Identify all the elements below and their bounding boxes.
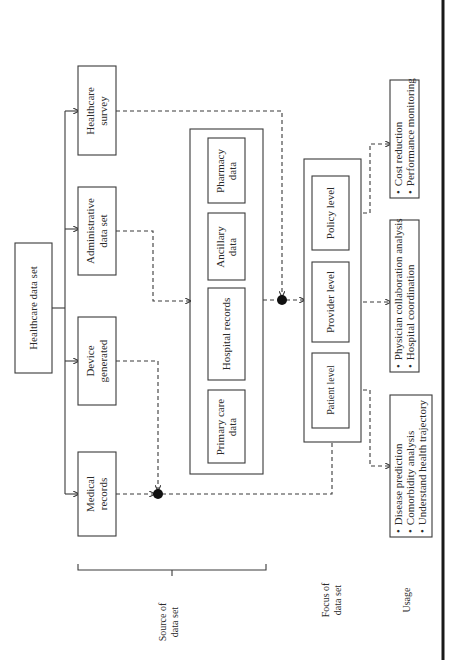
diagram-canvas: Healthcare data set Healthcare survey Ad… [0,0,450,660]
row-label-focus: Focus of [320,582,331,617]
usage-item: •Understand health trajectory [416,399,428,533]
data-type-label: Ancillary [214,226,226,268]
root-label: Healthcare data set [27,266,39,350]
source-label-line2: records [97,478,109,510]
row-label-focus: data set [332,585,343,615]
data-type-label: Primary care [214,399,226,456]
trunk-connector [52,111,78,494]
source-label-line1: Administrative [84,198,96,264]
focus-label: Policy level [324,187,336,239]
source-label-line2: survey [97,96,109,126]
usage-policy: •Cost reduction •Performance monitoring [390,78,419,198]
data-type-group: Pharmacy data Ancillary data Hospital re… [190,129,263,474]
data-type-label: data [226,238,238,256]
focus-label: Provider level [324,271,336,333]
source-device-generated: Device generated [78,317,116,405]
usage-item: •Comorbidity analysis [404,431,416,533]
usage-item: •Performance monitoring [404,78,416,194]
row-label-source: data set [169,607,180,637]
data-type-label: Pharmacy [214,149,226,193]
source-healthcare-survey: Healthcare survey [78,66,116,155]
usage-item: •Physician collaboration analysis [392,218,404,368]
focus-group: Policy level Provider level Patient leve… [304,159,361,442]
source-label-line1: Healthcare [84,87,96,135]
source-label-line1: Medical [84,476,96,512]
focus-label: Patient level [325,365,336,415]
usage-item: •Hospital coordination [404,264,416,368]
usage-patient: •Disease prediction •Comorbidity analysi… [390,395,432,537]
row-label-usage: Usage [401,587,412,613]
source-brace [78,564,266,576]
source-label-line1: Device [84,345,96,376]
merge-dot-icon [277,295,287,305]
usage-item: •Disease prediction [392,443,404,533]
source-label-line2: generated [97,339,109,382]
usage-provider: •Physician collaboration analysis •Hospi… [390,218,419,372]
row-label-source: Source of [157,602,168,641]
merge-dot-icon [153,489,163,499]
data-type-label: data [226,418,238,436]
root-node: Healthcare data set [15,243,52,373]
usage-item: •Cost reduction [392,121,404,194]
data-type-label: Hospital records [220,298,232,370]
source-medical-records: Medical records [78,452,116,536]
source-label-line2: data set [97,214,109,247]
source-administrative-data-set: Administrative data set [78,187,116,275]
data-type-label: data [226,162,238,180]
